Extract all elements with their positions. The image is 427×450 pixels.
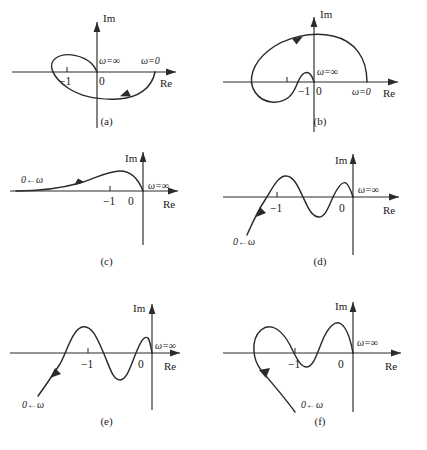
panel-caption-e: (e) xyxy=(0,415,213,427)
minus-one-label-a: −1 xyxy=(59,75,71,87)
imaginary-axis-arrow-c xyxy=(140,152,147,162)
origin-label-d: 0 xyxy=(339,202,345,214)
imaginary-axis-arrow-e xyxy=(149,304,156,314)
imaginary-axis-label-c: Im xyxy=(125,152,138,164)
panel-caption-f: (f) xyxy=(213,415,427,427)
omega-zero-label-d: 0←ω xyxy=(233,236,255,247)
panel-a: Im Re 0 −1 ω=∞ ω=0 (a) xyxy=(0,0,213,150)
omega-zero-label-e: 0←ω xyxy=(22,399,44,410)
imaginary-axis-label-b: Im xyxy=(320,8,333,20)
nyquist-curve-d xyxy=(247,176,353,235)
real-axis-label-b: Re xyxy=(383,87,395,99)
omega-infinity-label-b: ω=∞ xyxy=(317,66,338,77)
imaginary-axis-arrow-b xyxy=(311,17,318,27)
panel-d: Im Re 0 −1 ω=∞ 0←ω (d) xyxy=(213,150,427,290)
minus-one-label-c: −1 xyxy=(103,195,115,207)
omega-zero-label-c: 0←ω xyxy=(21,174,43,185)
minus-one-label-e: −1 xyxy=(81,358,93,370)
omega-zero-label-b: ω=0 xyxy=(352,86,371,97)
real-axis-label-a: Re xyxy=(160,77,172,89)
panel-c: Im Re 0 −1 ω=∞ 0←ω (c) xyxy=(0,150,213,290)
nyquist-curve-e xyxy=(38,327,152,396)
origin-label-b: 0 xyxy=(316,85,322,97)
origin-label-e: 0 xyxy=(138,358,144,370)
panel-caption-b: (b) xyxy=(213,115,427,127)
imaginary-axis-arrow-a xyxy=(94,22,101,32)
panel-caption-d: (d) xyxy=(213,255,427,267)
imaginary-axis-label-a: Im xyxy=(103,12,116,24)
omega-infinity-label-c: ω=∞ xyxy=(148,180,169,191)
direction-arrow-c xyxy=(74,179,84,186)
direction-arrow-e xyxy=(50,368,61,378)
real-axis-arrow-c xyxy=(168,188,178,195)
omega-zero-label-a: ω=0 xyxy=(141,55,160,66)
panel-caption-a: (a) xyxy=(0,115,213,127)
imaginary-axis-label-e: Im xyxy=(133,302,146,314)
panel-caption-c: (c) xyxy=(0,255,213,267)
real-axis-arrow-f xyxy=(391,350,401,357)
nyquist-figure-grid: Im Re 0 −1 ω=∞ ω=0 (a) Im Re 0 −1 ω=∞ ω=… xyxy=(0,0,427,450)
omega-zero-label-f: 0←ω xyxy=(301,399,323,410)
origin-label-c: 0 xyxy=(128,195,134,207)
real-axis-arrow-a xyxy=(166,69,176,76)
panel-b: Im Re 0 −1 ω=∞ ω=0 (b) xyxy=(213,0,427,150)
omega-infinity-label-a: ω=∞ xyxy=(99,55,120,66)
imaginary-axis-label-f: Im xyxy=(335,300,348,312)
omega-infinity-label-f: ω=∞ xyxy=(357,337,378,348)
imaginary-axis-label-d: Im xyxy=(335,154,348,166)
origin-label-a: 0 xyxy=(99,75,105,87)
omega-infinity-label-d: ω=∞ xyxy=(358,184,379,195)
imaginary-axis-arrow-d xyxy=(350,154,357,164)
minus-one-label-d: −1 xyxy=(270,202,282,214)
real-axis-arrow-b xyxy=(388,79,398,86)
real-axis-label-d: Re xyxy=(383,204,395,216)
panel-e: Im Re 0 −1 ω=∞ 0←ω (e) xyxy=(0,290,213,450)
omega-infinity-label-e: ω=∞ xyxy=(155,340,176,351)
real-axis-label-f: Re xyxy=(385,360,397,372)
imaginary-axis-arrow-f xyxy=(350,302,357,312)
direction-arrow-a xyxy=(120,90,131,97)
real-axis-label-c: Re xyxy=(163,198,175,210)
origin-label-f: 0 xyxy=(338,358,344,370)
minus-one-label-b: −1 xyxy=(298,85,310,97)
real-axis-label-e: Re xyxy=(164,360,176,372)
minus-one-label-f: −1 xyxy=(288,358,300,370)
real-axis-arrow-d xyxy=(389,194,399,201)
panel-f: Im Re 0 −1 ω=∞ 0←ω (f) xyxy=(213,290,427,450)
